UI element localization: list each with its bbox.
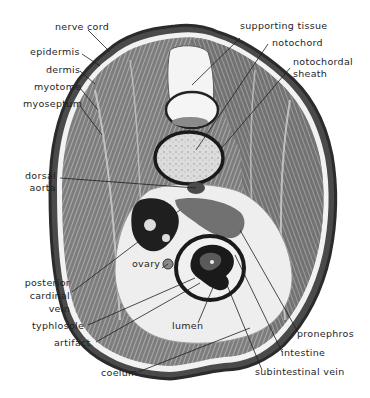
label-dermis: dermis: [46, 64, 80, 75]
label-myotome: myotome: [34, 81, 81, 92]
label-subintestinal-vein: subintestinal vein: [255, 366, 345, 377]
label-intestine: intestine: [281, 347, 325, 358]
label-posterior-cardinal-vein-line3: vein: [20, 303, 70, 314]
label-nerve-cord: nerve cord: [55, 21, 109, 32]
label-posterior-cardinal-vein-line2: cardinal: [20, 290, 70, 301]
label-myoseptum: myoseptum: [23, 98, 82, 109]
label-notochordal-sheath-line2: sheath: [293, 68, 327, 79]
nerve-cord: [166, 46, 218, 128]
label-artifact: artifact: [54, 337, 91, 348]
label-posterior-cardinal-vein-line1: posterior: [20, 277, 70, 288]
label-lumen: lumen: [172, 320, 203, 331]
label-ovary: ovary: [132, 258, 160, 269]
label-notochordal-sheath-line1: notochordal: [293, 56, 353, 67]
label-notochord: notochord: [272, 37, 323, 48]
label-supporting-tissue: supporting tissue: [240, 20, 327, 31]
label-epidermis: epidermis: [30, 46, 80, 57]
label-dorsal-aorta-line1: dorsal: [20, 170, 56, 181]
label-dorsal-aorta-line2: aorta: [20, 182, 56, 193]
notochord: [155, 132, 223, 184]
label-typhlosole: typhlosole: [32, 320, 84, 331]
label-coelum: coelum: [101, 367, 138, 378]
label-pronephros: pronephros: [297, 328, 354, 339]
